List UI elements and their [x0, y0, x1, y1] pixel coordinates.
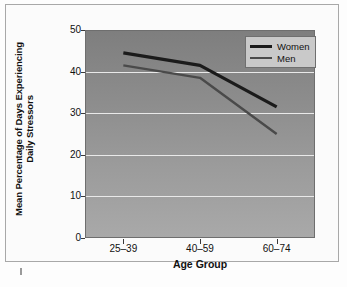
- y-tick-label-10: 10: [57, 191, 81, 201]
- y-axis-ticks: 01020304050: [54, 0, 81, 287]
- x-axis-title: Age Group: [85, 258, 315, 270]
- legend: Women Men: [245, 36, 316, 68]
- y-tick-label-40: 40: [57, 67, 81, 77]
- y-tick-mark-0: [81, 238, 85, 239]
- legend-item-men: Men: [250, 52, 310, 64]
- y-tick-mark-10: [81, 196, 85, 197]
- x-tick-label-1: 40–59: [170, 243, 230, 254]
- registration-mark: [20, 268, 22, 275]
- y-axis-title-line2: Daily Stressors: [24, 34, 35, 224]
- y-tick-label-0: 0: [57, 233, 81, 243]
- figure: 01020304050 Mean Percentage of Days Expe…: [0, 0, 347, 287]
- y-tick-mark-20: [81, 155, 85, 156]
- legend-swatch-men: [250, 57, 272, 59]
- y-axis-title-line1: Mean Percentage of Days Experiencing: [13, 34, 24, 224]
- y-tick-label-20: 20: [57, 150, 81, 160]
- y-axis-title: Mean Percentage of Days Experiencing Dai…: [13, 34, 35, 224]
- y-tick-mark-40: [81, 72, 85, 73]
- legend-label-women: Women: [277, 41, 310, 52]
- y-tick-mark-50: [81, 30, 85, 31]
- series-line-men: [123, 65, 276, 134]
- legend-label-men: Men: [277, 53, 295, 64]
- legend-swatch-women: [250, 45, 272, 48]
- x-tick-label-0: 25–39: [93, 243, 153, 254]
- y-tick-label-50: 50: [57, 25, 81, 35]
- y-tick-mark-30: [81, 113, 85, 114]
- y-tick-label-30: 30: [57, 108, 81, 118]
- x-tick-label-2: 60–74: [247, 243, 307, 254]
- legend-item-women: Women: [250, 40, 310, 52]
